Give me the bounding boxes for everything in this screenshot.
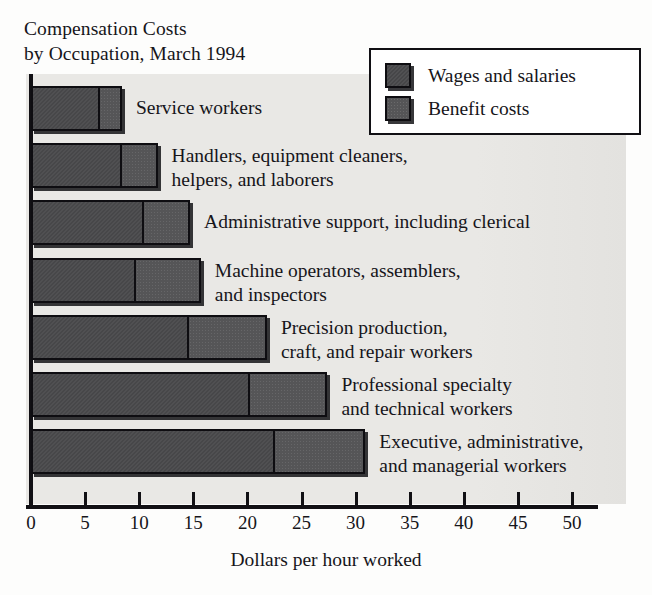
x-tick-label-10: 10 bbox=[119, 512, 159, 534]
category-label-line-1: Administrative support, including cleric… bbox=[204, 210, 530, 234]
bar-segment-benefits[interactable] bbox=[120, 145, 156, 186]
bar-segment-benefits[interactable] bbox=[273, 431, 363, 472]
bar-row[interactable] bbox=[31, 258, 201, 303]
category-label: Administrative support, including cleric… bbox=[204, 210, 530, 234]
category-label-line-1: Precision production, bbox=[281, 316, 473, 340]
x-tick-label-45: 45 bbox=[498, 512, 538, 534]
x-tick-label-20: 20 bbox=[227, 512, 267, 534]
category-label: Professional specialtyand technical work… bbox=[341, 373, 512, 421]
bar-segment-wages[interactable] bbox=[33, 202, 142, 243]
x-tick-25 bbox=[301, 492, 304, 506]
x-tick-20 bbox=[246, 492, 249, 506]
bar-segment-benefits[interactable] bbox=[134, 260, 199, 301]
legend-label-benefits: Benefit costs bbox=[428, 98, 529, 120]
legend-swatch-benefits-icon bbox=[385, 96, 411, 121]
bar-row[interactable] bbox=[31, 315, 267, 360]
x-tick-15 bbox=[192, 492, 195, 506]
category-label: Executive, administrative,and managerial… bbox=[379, 430, 583, 478]
x-tick-label-30: 30 bbox=[336, 512, 376, 534]
legend-item-benefit-costs[interactable]: Benefit costs bbox=[385, 92, 639, 125]
x-axis-line bbox=[26, 505, 598, 509]
chart-title-line-1: Compensation Costs bbox=[24, 16, 404, 41]
bar-row[interactable] bbox=[31, 429, 365, 474]
bar-segment-benefits[interactable] bbox=[98, 88, 120, 129]
category-label-line-2: and technical workers bbox=[341, 397, 512, 421]
category-label-line-1: Handlers, equipment cleaners, bbox=[172, 144, 408, 168]
x-tick-label-15: 15 bbox=[173, 512, 213, 534]
bar-row[interactable] bbox=[31, 86, 122, 131]
x-tick-30 bbox=[355, 492, 358, 506]
bar-row[interactable] bbox=[31, 372, 327, 417]
category-label: Handlers, equipment cleaners,helpers, an… bbox=[172, 144, 408, 192]
bar-row[interactable] bbox=[31, 200, 190, 245]
bar-segment-wages[interactable] bbox=[33, 88, 98, 129]
x-tick-label-0: 0 bbox=[11, 512, 51, 534]
category-label-line-1: Machine operators, assemblers, bbox=[215, 259, 461, 283]
chart-title: Compensation Costs by Occupation, March … bbox=[24, 16, 404, 66]
bar-segment-benefits[interactable] bbox=[248, 374, 325, 415]
bar-segment-wages[interactable] bbox=[33, 317, 187, 358]
category-label: Machine operators, assemblers,and inspec… bbox=[215, 259, 461, 307]
category-label-line-2: craft, and repair workers bbox=[281, 340, 473, 364]
category-label-line-1: Executive, administrative, bbox=[379, 430, 583, 454]
legend-swatch-wages-icon bbox=[385, 63, 411, 88]
category-label-line-2: helpers, and laborers bbox=[172, 168, 408, 192]
bar-segment-benefits[interactable] bbox=[187, 317, 265, 358]
x-tick-5 bbox=[84, 492, 87, 506]
chart-title-line-2: by Occupation, March 1994 bbox=[24, 41, 404, 66]
legend-item-wages-and-salaries[interactable]: Wages and salaries bbox=[385, 59, 639, 92]
x-tick-35 bbox=[409, 492, 412, 506]
category-label: Precision production,craft, and repair w… bbox=[281, 316, 473, 364]
x-tick-40 bbox=[463, 492, 466, 506]
bar-segment-benefits[interactable] bbox=[142, 202, 188, 243]
category-label-line-2: and managerial workers bbox=[379, 454, 583, 478]
x-tick-50 bbox=[571, 492, 574, 506]
x-tick-label-25: 25 bbox=[282, 512, 322, 534]
bar-segment-wages[interactable] bbox=[33, 145, 120, 186]
category-label-line-2: and inspectors bbox=[215, 283, 461, 307]
x-axis-title: Dollars per hour worked bbox=[0, 549, 652, 571]
x-tick-45 bbox=[517, 492, 520, 506]
compensation-costs-chart: Compensation Costs by Occupation, March … bbox=[0, 0, 652, 595]
bar-segment-wages[interactable] bbox=[33, 374, 248, 415]
legend-label-wages: Wages and salaries bbox=[428, 65, 576, 87]
x-tick-label-5: 5 bbox=[65, 512, 105, 534]
x-tick-0 bbox=[30, 492, 33, 506]
x-tick-label-35: 35 bbox=[390, 512, 430, 534]
chart-legend: Wages and salaries Benefit costs bbox=[369, 48, 641, 135]
bar-segment-wages[interactable] bbox=[33, 260, 134, 301]
x-tick-label-50: 50 bbox=[552, 512, 592, 534]
category-label: Service workers bbox=[136, 96, 262, 120]
x-tick-label-40: 40 bbox=[444, 512, 484, 534]
bar-row[interactable] bbox=[31, 143, 158, 188]
x-tick-10 bbox=[138, 492, 141, 506]
category-label-line-1: Service workers bbox=[136, 96, 262, 120]
bar-segment-wages[interactable] bbox=[33, 431, 273, 472]
category-label-line-1: Professional specialty bbox=[341, 373, 512, 397]
